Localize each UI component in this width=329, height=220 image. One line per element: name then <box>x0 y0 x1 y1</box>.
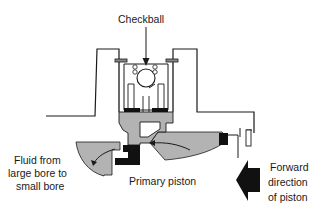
seal-left <box>124 108 140 112</box>
retainer-right <box>166 59 178 62</box>
housing-right-outline <box>173 49 254 133</box>
diagram-canvas: Checkball Fluid from large bore to small… <box>0 0 329 220</box>
housing-left-outline <box>46 49 119 116</box>
seal-right <box>152 108 168 112</box>
secondary-cup <box>219 133 228 145</box>
retainer-left <box>115 59 127 62</box>
primary-piston-label: Primary piston <box>129 175 196 188</box>
fluid-label-line2: large bore to <box>8 167 67 180</box>
forward-direction-arrow <box>236 160 260 201</box>
checkball <box>137 69 155 87</box>
forward-label-line3: of piston <box>268 191 308 204</box>
forward-label-line2: direction <box>268 176 308 189</box>
forward-label-line1: Forward <box>270 161 309 174</box>
piston-stop <box>246 130 251 146</box>
checkball-label: Checkball <box>118 13 164 26</box>
checkball-pointer-head <box>143 58 150 66</box>
large-bore-fluid <box>76 142 120 176</box>
fluid-label-line1: Fluid from <box>14 154 61 167</box>
piston-chamber-fluid <box>150 132 226 160</box>
fluid-label-line3: small bore <box>16 180 64 193</box>
